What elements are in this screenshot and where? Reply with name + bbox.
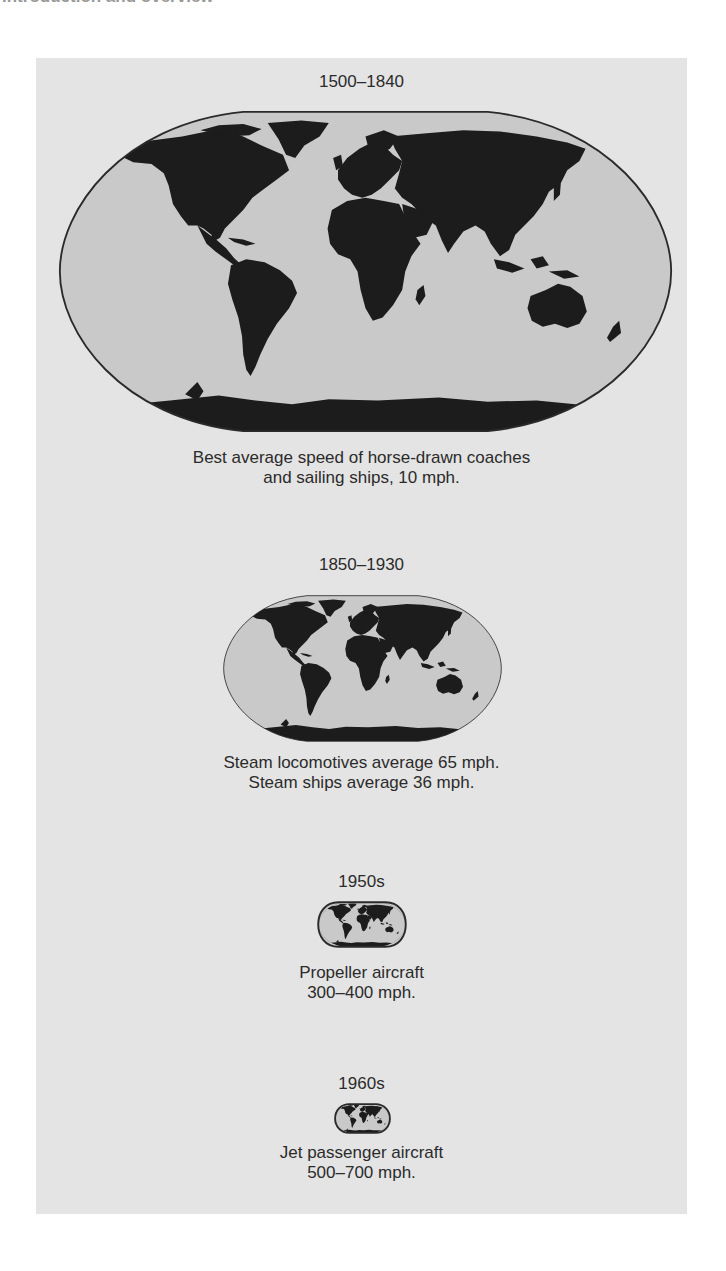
- caption-line: Jet passenger aircraft: [36, 1143, 687, 1163]
- caption-line: Steam ships average 36 mph.: [36, 773, 687, 793]
- caption-1960s: Jet passenger aircraft 500–700 mph.: [36, 1143, 687, 1183]
- world-map-1960s: [334, 1103, 391, 1134]
- caption-line: and sailing ships, 10 mph.: [36, 468, 687, 488]
- era-title-1500-1840: 1500–1840: [36, 72, 687, 92]
- era-title-1960s: 1960s: [36, 1074, 687, 1094]
- caption-1950s: Propeller aircraft 300–400 mph.: [36, 963, 687, 1003]
- caption-1850-1930: Steam locomotives average 65 mph. Steam …: [36, 753, 687, 793]
- caption-line: Propeller aircraft: [36, 963, 687, 983]
- era-title-1850-1930: 1850–1930: [36, 555, 687, 575]
- caption-1500-1840: Best average speed of horse-drawn coache…: [36, 448, 687, 488]
- caption-line: Best average speed of horse-drawn coache…: [36, 448, 687, 468]
- figure-panel: 1500–1840 Best average speed of horse-dr…: [36, 58, 687, 1214]
- caption-line: 500–700 mph.: [36, 1163, 687, 1183]
- running-head: Introduction and overview: [2, 0, 214, 7]
- era-title-1950s: 1950s: [36, 872, 687, 892]
- caption-line: Steam locomotives average 65 mph.: [36, 753, 687, 773]
- caption-line: 300–400 mph.: [36, 983, 687, 1003]
- world-map-1950s: [317, 901, 407, 948]
- world-map-1500-1840: [58, 110, 673, 433]
- world-map-1850-1930: [222, 594, 503, 743]
